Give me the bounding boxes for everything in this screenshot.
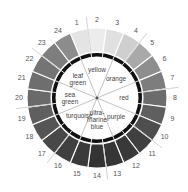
segment-number: 10 — [161, 133, 169, 140]
segment-number: 14 — [93, 172, 101, 179]
segment-number: 11 — [149, 150, 156, 157]
segment-number: 19 — [18, 115, 26, 122]
segment-number: 12 — [132, 162, 140, 169]
inner-label-purple: purple — [107, 113, 125, 121]
center-dot — [96, 97, 99, 100]
segment-number: 15 — [73, 170, 81, 177]
segment-number: 22 — [26, 55, 34, 62]
inner-label-red: red — [119, 94, 129, 101]
inner-label-yellow: yellow — [88, 66, 106, 74]
inner-label-orange: orange — [106, 75, 127, 83]
segment-number: 23 — [38, 39, 46, 46]
segment-number: 24 — [54, 27, 62, 34]
segment-number: 16 — [54, 162, 62, 169]
segment-number: 17 — [38, 150, 46, 157]
segment-number: 3 — [115, 19, 119, 26]
inner-label-turquoise: turquoise — [66, 112, 93, 120]
color-wheel-diagram: 123456789101112131415161718192021222324 … — [0, 0, 188, 192]
segment-number: 4 — [134, 27, 138, 34]
segment-number: 9 — [170, 115, 174, 122]
segment-number: 6 — [163, 55, 167, 62]
segment-number: 1 — [75, 19, 79, 26]
segment-number: 7 — [170, 74, 174, 81]
segment-number: 5 — [150, 39, 154, 46]
segment-number: 2 — [95, 16, 99, 23]
segment-number: 21 — [18, 74, 26, 81]
segment-number: 13 — [113, 170, 121, 177]
segment-number: 20 — [15, 94, 23, 101]
segment-number: 8 — [173, 94, 177, 101]
segment-number: 18 — [26, 133, 34, 140]
